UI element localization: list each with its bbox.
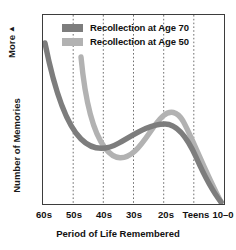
x-axis-title: Period of Life Remembered [0, 228, 236, 239]
x-tick-teens: Teens [183, 209, 210, 220]
x-tick-60s: 60s [36, 209, 52, 220]
x-tick-10-0: 10–0 [212, 209, 233, 220]
legend-swatch-age-50 [62, 38, 83, 46]
chart-legend: Recollection at Age 70 Recollection at A… [62, 21, 189, 49]
legend-label-age-50: Recollection at Age 50 [90, 36, 189, 47]
legend-label-age-70: Recollection at Age 70 [90, 22, 189, 33]
x-tick-40s: 40s [96, 209, 112, 220]
x-tick-20s: 20s [158, 209, 174, 220]
x-tick-50s: 50s [66, 209, 82, 220]
y-axis-more-text: More [6, 35, 17, 58]
y-axis: More▲ Number of Memories [0, 0, 40, 210]
chart-figure: More▲ Number of Memories Recollection [0, 0, 236, 250]
x-axis-ticks: 60s 50s 40s 30s 20s Teens 10–0 [42, 209, 225, 225]
y-axis-title: Number of Memories [11, 81, 22, 211]
legend-item-recollection-age-50: Recollection at Age 50 [62, 35, 189, 48]
series-line-recollection-age-50 [81, 57, 221, 202]
x-tick-30s: 30s [126, 209, 142, 220]
up-arrow-icon: ▲ [8, 25, 16, 33]
y-axis-more-label: More▲ [6, 9, 17, 75]
legend-swatch-age-70 [62, 24, 83, 32]
plot-area: Recollection at Age 70 Recollection at A… [42, 14, 225, 205]
legend-item-recollection-age-70: Recollection at Age 70 [62, 21, 189, 34]
